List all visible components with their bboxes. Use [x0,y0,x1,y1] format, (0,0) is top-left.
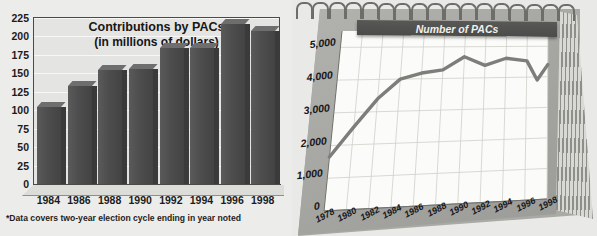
bar-front-face [190,48,214,184]
spiral-ring [411,3,428,20]
bar-side-face [245,24,250,184]
bar-side-face [184,48,189,184]
bar-x-tick-label: 1992 [154,194,188,206]
bar-top-face [68,81,97,86]
line-gridline-vertical [480,31,486,203]
spiral-ring [493,3,510,20]
line-gridline-vertical [502,31,506,201]
bar-front-face [98,70,122,184]
line-y-axis-spine [324,31,342,211]
bar-x-axis: 19841986198819901992199419961998 [33,194,280,208]
bar-top-face [251,26,280,31]
bar-front-face [37,107,61,184]
bar-top-face [37,102,66,107]
bar-y-tick-label: 50 [0,141,29,153]
bar-front-face [160,48,184,184]
bar-top-face [221,19,250,24]
bar-chart-panel: Contributions by PACs(in millions of dol… [0,0,292,236]
bar-x-tick-label: 1986 [62,194,96,206]
figure-root: Contributions by PACs(in millions of dol… [0,0,597,236]
bar-front-face [129,69,153,184]
spiral-ring [444,3,461,20]
line-plot-svg [298,9,560,236]
spiral-ring [526,4,543,21]
bar-y-tick-label: 225 [0,12,29,24]
bar-y-tick-label: 200 [0,30,29,42]
spiral-ring [509,4,526,21]
spiral-ring [542,4,559,21]
bar-front-face [221,24,245,184]
spiral-ring [362,2,379,19]
line-gridline-vertical [525,31,528,200]
spiral-ring [558,4,575,21]
notepad-spiral-rings [296,2,586,22]
bar-side-face [92,86,97,184]
bar-y-tick-label: 0 [0,178,29,190]
bar-side-face [214,48,219,184]
bar-top-face [98,65,127,70]
bar-baseline [33,184,281,185]
line-chart-title: Number of PACs [357,22,557,36]
bar-chart-footnote: *Data covers two-year election cycle end… [6,213,241,223]
bar-series [34,18,279,184]
bar-x-tick-label: 1984 [31,194,65,206]
spiral-ring [460,3,477,20]
spiral-ring [345,2,362,19]
spiral-ring [296,2,313,19]
bar-top-face [190,43,219,48]
bar-top-face [160,43,189,48]
spiral-ring [476,3,493,20]
spiral-ring [329,2,346,19]
bar-side-face [122,70,127,184]
bar-y-tick-label: 150 [0,67,29,79]
bar-front-face [251,31,275,184]
spiral-ring [427,3,444,20]
bar-y-tick-label: 75 [0,123,29,135]
bar-side-face [153,69,158,184]
bar-side-face [61,107,66,184]
bar-x-tick-label: 1988 [93,194,127,206]
bar-top-face [129,64,158,69]
spiral-ring [312,2,329,19]
line-gridline-vertical [547,31,548,199]
line-gridline-vertical [369,31,384,209]
spiral-ring [394,3,411,20]
bar-x-tick-label: 1994 [184,194,218,206]
line-gridline-vertical [436,31,446,205]
line-gridline-vertical [413,31,424,206]
bar-front-face [68,86,92,184]
bar-side-face [275,31,280,184]
bar-x-tick-label: 1998 [246,194,280,206]
line-gridline-vertical [391,31,404,207]
spiral-ring [378,3,395,20]
bar-y-tick-label: 175 [0,49,29,61]
bar-y-tick-label: 100 [0,104,29,116]
bar-y-axis: 0255075100125150175200225 [0,17,29,185]
bar-y-tick-label: 125 [0,86,29,98]
bar-y-tick-label: 25 [0,160,29,172]
bar-x-tick-label: 1996 [215,194,249,206]
bar-x-tick-label: 1990 [123,194,157,206]
